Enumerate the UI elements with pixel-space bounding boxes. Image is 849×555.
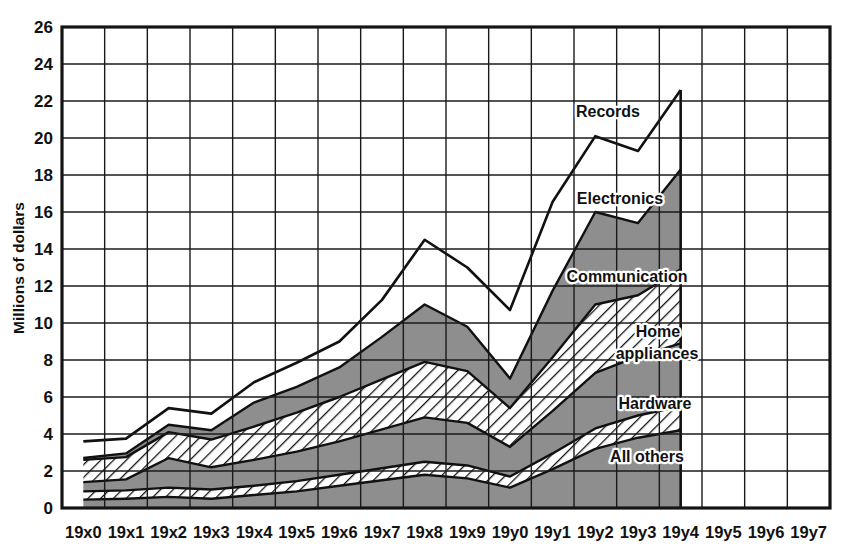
band-label: Electronics bbox=[577, 190, 663, 207]
x-tick-label: 19y0 bbox=[492, 523, 529, 541]
x-tick-label: 19x8 bbox=[406, 523, 443, 541]
y-tick-label: 14 bbox=[34, 240, 53, 259]
x-tick-label: 19y1 bbox=[534, 523, 571, 541]
y-tick-label: 4 bbox=[44, 425, 54, 444]
y-tick-label: 22 bbox=[34, 92, 53, 111]
x-tick-label: 19y3 bbox=[620, 523, 657, 541]
band-label: Hardware bbox=[619, 395, 692, 412]
x-tick-label: 19x0 bbox=[65, 523, 102, 541]
top-cropped-text bbox=[300, 0, 500, 10]
x-tick-label: 19x5 bbox=[278, 523, 315, 541]
y-tick-label: 12 bbox=[34, 277, 53, 296]
y-tick-label: 8 bbox=[44, 351, 53, 370]
x-tick-label: 19y4 bbox=[662, 523, 700, 541]
y-tick-label: 6 bbox=[44, 388, 53, 407]
x-tick-label: 19x2 bbox=[150, 523, 187, 541]
x-tick-label: 19y2 bbox=[577, 523, 614, 541]
x-tick-label: 19y6 bbox=[748, 523, 785, 541]
x-tick-label: 19x3 bbox=[193, 523, 230, 541]
y-tick-label: 10 bbox=[34, 314, 53, 333]
band-label: Records bbox=[576, 103, 640, 120]
x-tick-label: 19x4 bbox=[236, 523, 274, 541]
stacked-area-chart: 02468101214161820222426 19x019x119x219x3… bbox=[0, 0, 849, 555]
y-tick-label: 18 bbox=[34, 166, 53, 185]
y-tick-label: 2 bbox=[44, 462, 53, 481]
x-tick-label: 19x6 bbox=[321, 523, 358, 541]
y-tick-label: 16 bbox=[34, 203, 53, 222]
x-tick-label: 19y5 bbox=[705, 523, 742, 541]
chart-container: 02468101214161820222426 19x019x119x219x3… bbox=[0, 0, 849, 555]
x-tick-label: 19x1 bbox=[108, 523, 145, 541]
band-label: appliances bbox=[616, 345, 699, 362]
y-tick-label: 20 bbox=[34, 129, 53, 148]
y-tick-label: 26 bbox=[34, 18, 53, 37]
x-tick-label: 19x9 bbox=[449, 523, 486, 541]
band-label: Communication bbox=[567, 268, 688, 285]
band-label: Home bbox=[636, 323, 681, 340]
y-tick-label: 0 bbox=[44, 499, 53, 518]
x-tick-label: 19y7 bbox=[790, 523, 827, 541]
band-label: All others bbox=[610, 448, 684, 465]
y-tick-label: 24 bbox=[34, 55, 53, 74]
y-axis-title: Millions of dollars bbox=[10, 202, 27, 334]
x-tick-label: 19x7 bbox=[364, 523, 401, 541]
